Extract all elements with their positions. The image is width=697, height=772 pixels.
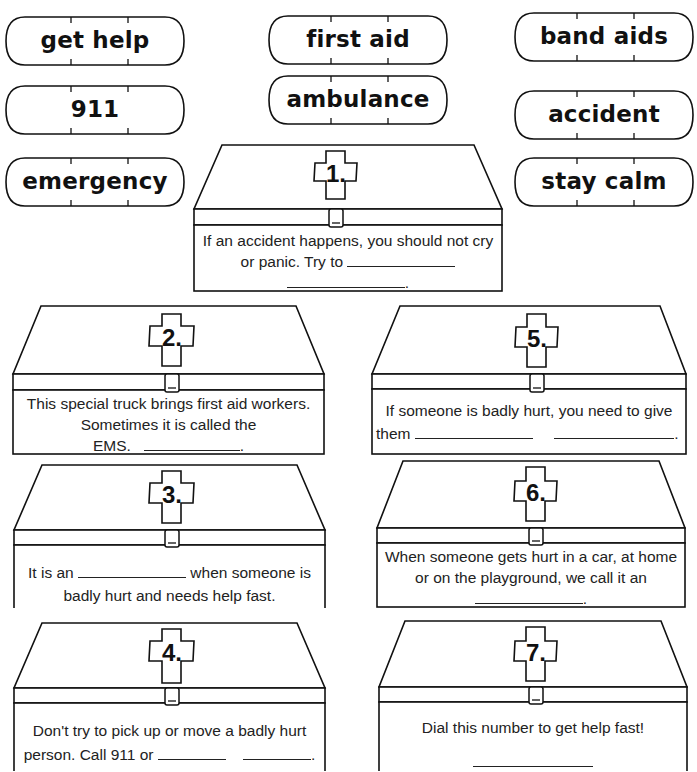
answer-blank[interactable] bbox=[243, 745, 311, 760]
question-line: . bbox=[379, 588, 683, 609]
question-line: . bbox=[196, 272, 500, 293]
answer-blank[interactable] bbox=[475, 589, 583, 604]
answer-blank[interactable] bbox=[144, 436, 240, 451]
question-line: person. Call 911 or . bbox=[16, 743, 323, 767]
question-number: 3. bbox=[152, 481, 192, 509]
question-line: If someone is badly hurt, you need to gi… bbox=[374, 399, 684, 422]
answer-blank[interactable] bbox=[415, 424, 533, 439]
question-number: 6. bbox=[516, 479, 556, 507]
question-6-kit: 6. When someone gets hurt in a car, at h… bbox=[375, 459, 687, 609]
question-7-kit: 7. Dial this number to get help fast! bbox=[377, 619, 689, 771]
question-text: Dial this number to get help fast! bbox=[381, 717, 685, 772]
question-number: 4. bbox=[152, 639, 192, 667]
word-first-aid: first aid bbox=[268, 15, 448, 63]
word-accident: accident bbox=[514, 90, 694, 138]
answer-blank[interactable] bbox=[158, 745, 226, 760]
question-fragment: when someone is bbox=[190, 564, 311, 581]
question-text: Don't try to pick up or move a badly hur… bbox=[16, 719, 323, 767]
question-fragment: or panic. Try to bbox=[241, 253, 344, 270]
question-line: Dial this number to get help fast! bbox=[381, 717, 685, 738]
word-label: first aid bbox=[268, 15, 448, 63]
word-get-help: get help bbox=[5, 16, 185, 64]
word-911: 911 bbox=[5, 85, 185, 133]
question-line: or on the playground, we call it an bbox=[379, 567, 683, 588]
word-label: stay calm bbox=[514, 157, 694, 205]
question-line: This special truck brings first aid work… bbox=[15, 393, 322, 414]
question-line: When someone gets hurt in a car, at home bbox=[379, 546, 683, 567]
question-text: It is an when someone is badly hurt and … bbox=[16, 561, 323, 607]
answer-blank[interactable] bbox=[287, 273, 405, 288]
question-fragment: It is an bbox=[28, 564, 74, 581]
question-text: This special truck brings first aid work… bbox=[15, 393, 322, 456]
question-fragment: . bbox=[583, 590, 587, 607]
question-fragment: EMS. bbox=[93, 437, 131, 454]
question-fragment: . bbox=[311, 746, 315, 763]
question-5-kit: 5. If someone is badly hurt, you need to… bbox=[370, 304, 688, 456]
question-fragment: them bbox=[376, 425, 410, 442]
word-band-aids: band aids bbox=[514, 12, 694, 60]
question-fragment: . bbox=[405, 274, 409, 291]
question-text: When someone gets hurt in a car, at home… bbox=[379, 546, 683, 609]
word-label: emergency bbox=[5, 157, 185, 205]
question-line: them . bbox=[374, 422, 684, 445]
question-number: 2. bbox=[152, 324, 192, 352]
question-4-kit: 4. Don't try to pick up or move a badly … bbox=[12, 621, 327, 771]
question-line: EMS. . bbox=[15, 435, 322, 456]
question-line: It is an when someone is bbox=[16, 561, 323, 584]
question-line: Don't try to pick up or move a badly hur… bbox=[16, 719, 323, 743]
question-fragment: . bbox=[240, 437, 244, 454]
question-fragment: . bbox=[674, 425, 678, 442]
question-3-kit: 3. It is an when someone is badly hurt a… bbox=[12, 463, 327, 608]
word-label: band aids bbox=[514, 12, 694, 60]
answer-blank[interactable] bbox=[473, 752, 593, 767]
question-number: 5. bbox=[517, 325, 557, 353]
question-line: Sometimes it is called the bbox=[15, 414, 322, 435]
answer-blank[interactable] bbox=[554, 424, 674, 439]
question-text: If someone is badly hurt, you need to gi… bbox=[374, 399, 684, 445]
question-text: If an accident happens, you should not c… bbox=[196, 230, 500, 293]
word-emergency: emergency bbox=[5, 157, 185, 205]
word-label: get help bbox=[5, 16, 185, 64]
question-line bbox=[381, 751, 685, 772]
word-stay-calm: stay calm bbox=[514, 157, 694, 205]
question-number: 1. bbox=[316, 160, 356, 188]
word-ambulance: ambulance bbox=[268, 75, 448, 123]
answer-blank[interactable] bbox=[78, 563, 186, 578]
answer-blank[interactable] bbox=[347, 252, 455, 267]
question-2-kit: 2. This special truck brings first aid w… bbox=[11, 304, 326, 456]
question-line: or panic. Try to bbox=[196, 251, 500, 272]
word-label: 911 bbox=[5, 85, 185, 133]
word-label: ambulance bbox=[268, 75, 448, 123]
question-fragment: person. Call 911 or bbox=[24, 746, 154, 763]
question-number: 7. bbox=[516, 639, 556, 667]
word-label: accident bbox=[514, 90, 694, 138]
question-1-kit: 1. If an accident happens, you should no… bbox=[192, 143, 504, 293]
question-line: badly hurt and needs help fast. bbox=[16, 584, 323, 607]
question-line: If an accident happens, you should not c… bbox=[196, 230, 500, 251]
